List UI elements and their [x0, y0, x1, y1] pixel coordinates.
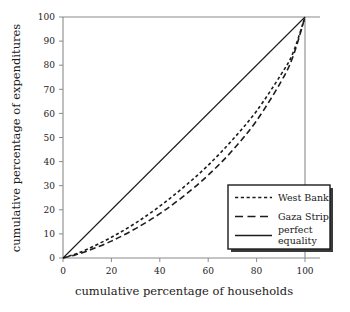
y-tick-label: 80: [44, 60, 56, 70]
y-tick-label: 10: [44, 229, 56, 239]
x-tick-label: 60: [202, 266, 214, 276]
x-tick-label: 0: [60, 266, 66, 276]
lorenz-curve-chart: 0 10 20 30 40 50 60 70 80 90 100 0 20 40…: [0, 0, 350, 312]
y-axis-caption: cumulative percentage of expenditures: [9, 24, 23, 253]
x-tick-label: 20: [106, 266, 118, 276]
legend-label-perfect: perfect: [278, 224, 313, 235]
chart-canvas: 0 10 20 30 40 50 60 70 80 90 100 0 20 40…: [0, 0, 350, 312]
legend-label-equality: equality: [278, 235, 317, 246]
chart-legend: West Bank Gaza Strip perfect equality: [228, 185, 333, 252]
y-tick-label: 0: [49, 253, 55, 263]
x-tick-label: 80: [251, 266, 263, 276]
y-tick-label: 20: [44, 205, 56, 215]
x-tick-label: 40: [154, 266, 166, 276]
legend-label-gaza-strip: Gaza Strip: [278, 211, 329, 222]
y-tick-label: 90: [44, 36, 56, 46]
x-axis-caption: cumulative percentage of households: [75, 284, 293, 298]
y-tick-label: 30: [44, 181, 56, 191]
y-tick-label: 100: [38, 12, 55, 22]
y-tick-label: 70: [44, 85, 56, 95]
x-tick-label: 100: [296, 266, 313, 276]
y-tick-label: 40: [44, 157, 56, 167]
y-tick-label: 60: [44, 109, 56, 119]
legend-label-west-bank: West Bank: [278, 192, 329, 203]
y-tick-label: 50: [44, 133, 56, 143]
